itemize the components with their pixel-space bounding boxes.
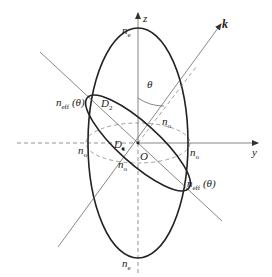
k-vector-label: k	[222, 18, 228, 30]
origin-point	[137, 142, 140, 145]
d1-label: D1	[114, 139, 125, 153]
index-ellipsoid-diagram	[0, 0, 272, 277]
ne-top-label: ne	[122, 25, 131, 39]
theta-label: θ	[147, 79, 152, 90]
no-left-label: no	[78, 145, 87, 159]
no-right-label: no	[190, 147, 199, 161]
theta-arc	[138, 98, 164, 106]
neff-left-label: neff (θ)	[56, 97, 85, 111]
origin-label: O	[140, 151, 148, 162]
no-lower-diag-label: no	[118, 159, 127, 173]
k-vector	[58, 24, 221, 247]
d2-label: D2	[101, 98, 112, 112]
y-axis-label: y	[252, 147, 257, 158]
wave-plane-line	[40, 52, 222, 221]
z-axis-label: z	[143, 13, 147, 24]
neff-right-label: neff (θ)	[187, 178, 216, 192]
no-upper-diag-label: no	[162, 116, 171, 130]
ne-bottom-label: ne	[122, 258, 131, 272]
